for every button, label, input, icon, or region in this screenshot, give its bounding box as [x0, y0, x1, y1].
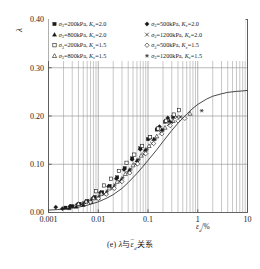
series-open-triangle — [76, 112, 192, 206]
series-filled-diamond — [54, 116, 170, 211]
x-tick-label: 10 — [244, 215, 252, 224]
y-axis-label: λ — [14, 28, 24, 33]
figure-caption: (e) λ与εd关系 — [0, 238, 260, 251]
legend: σ3=200kPa, Kc=2.0σ3=500kPa, Kc=2.0σ3=800… — [49, 17, 246, 61]
x-tick-label: 0.1 — [143, 215, 153, 224]
series-open-square — [94, 109, 180, 193]
y-tick-label: 0.10 — [30, 160, 44, 169]
x-tick-label: 0.01 — [91, 215, 105, 224]
y-tick-label: 0.20 — [30, 112, 44, 121]
chart-plot: 0.000.100.200.300.40 0.0010.010.1110 σ3=… — [0, 0, 260, 269]
x-axis-label: εd/% — [196, 222, 210, 233]
caption-suffix: 关系 — [137, 240, 153, 249]
caption-connector: 与 — [122, 240, 130, 249]
legend-marker-open-square — [53, 44, 56, 47]
data-points — [54, 109, 204, 211]
legend-marker-filled-square — [53, 22, 56, 25]
caption-symbol-x: ε — [131, 240, 134, 249]
caption-prefix: (e) — [107, 240, 116, 249]
y-tick-label: 0.40 — [30, 15, 44, 24]
figure-container: 0.000.100.200.300.40 0.0010.010.1110 σ3=… — [0, 0, 260, 269]
x-tick-label: 0.001 — [40, 215, 58, 224]
y-tick-label: 0.30 — [30, 64, 44, 73]
